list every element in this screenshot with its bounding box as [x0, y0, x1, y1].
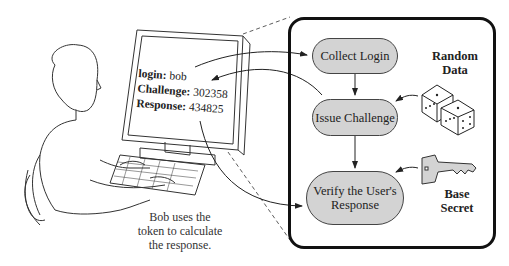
node-collect-login: Collect Login [312, 38, 398, 74]
node-label: Issue Challenge [315, 111, 395, 125]
caption-line: token to calculate [130, 224, 230, 238]
caption-line: the response. [130, 238, 230, 252]
caption-line: Bob uses the [130, 210, 230, 224]
node-label: Verify the User'sResponse [313, 184, 396, 212]
screen-login-text: login: bob Challenge: 302358 Response: 4… [136, 66, 229, 117]
node-issue-challenge: Issue Challenge [312, 99, 398, 136]
node-label: Collect Login [320, 49, 389, 63]
caption: Bob uses the token to calculate the resp… [130, 210, 230, 252]
base-secret-label: BaseSecret [432, 187, 482, 215]
node-verify-response: Verify the User'sResponse [306, 171, 404, 225]
random-data-label: RandomData [425, 49, 485, 77]
